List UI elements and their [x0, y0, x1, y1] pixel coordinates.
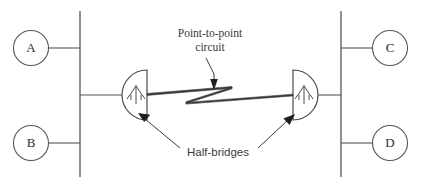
point-to-point-callout: Point-to-point circuit	[178, 27, 243, 90]
node-b-label: B	[27, 135, 36, 150]
point-to-point-leader-line	[206, 58, 214, 82]
point-to-point-callout-line2: circuit	[195, 41, 225, 53]
node-d[interactable]: D	[341, 126, 408, 161]
node-b[interactable]: B	[14, 126, 81, 161]
left-half-bridge[interactable]	[122, 70, 147, 120]
node-a[interactable]: A	[14, 31, 81, 66]
point-to-point-link[interactable]	[147, 87, 293, 105]
right-half-bridge[interactable]	[293, 70, 318, 120]
half-bridges-callout-label: Half-bridges	[187, 146, 249, 158]
half-bridges-leader-right-line	[258, 120, 288, 148]
point-to-point-callout-line1: Point-to-point	[178, 27, 243, 40]
link-segment-lower	[186, 94, 293, 104]
diagram-canvas: A B C D	[0, 0, 422, 189]
half-bridge-icon	[293, 70, 318, 120]
node-c[interactable]: C	[341, 31, 408, 66]
node-c-label: C	[386, 40, 395, 55]
node-d-label: D	[385, 135, 394, 150]
half-bridge-icon	[122, 70, 147, 120]
half-bridges-callout: Half-bridges	[138, 113, 295, 158]
half-bridges-leader-left-line	[145, 119, 180, 148]
node-a-label: A	[26, 40, 36, 55]
network-diagram: A B C D	[0, 0, 422, 189]
